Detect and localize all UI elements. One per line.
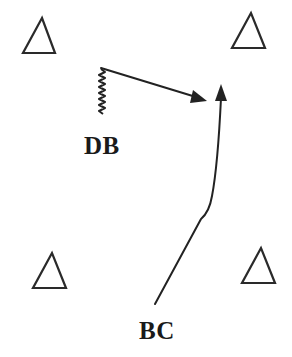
- drill-diagram: [0, 0, 292, 357]
- label-bc: BC: [139, 318, 175, 343]
- label-db: DB: [84, 133, 120, 158]
- cone-top-right-icon: [232, 13, 265, 48]
- bc-route-arrow: [155, 84, 227, 304]
- cone-bottom-left-icon: [33, 253, 66, 288]
- db-route-arrow: [101, 68, 207, 103]
- cone-top-left-icon: [23, 18, 55, 53]
- arrowhead-icon: [190, 90, 207, 103]
- db-backpedal-zigzag: [99, 69, 105, 114]
- cone-bottom-right-icon: [242, 248, 275, 283]
- arrowhead-icon: [215, 84, 227, 101]
